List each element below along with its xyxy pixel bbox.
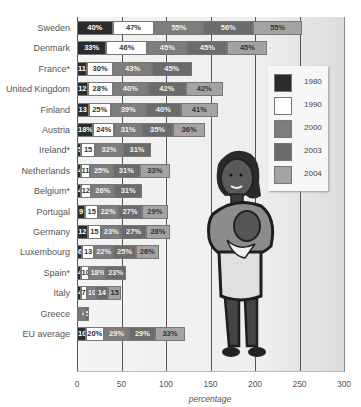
bar-segment-2003: 27% <box>118 205 142 219</box>
legend-swatch <box>274 74 292 92</box>
bar-segment-1990: 13 <box>82 245 94 259</box>
bar-segment-2004: 28% <box>146 225 171 239</box>
bar-segment-1980: 13 <box>77 103 89 117</box>
category-label: Germany <box>0 225 70 239</box>
stacked-bar: 1130%43%45% <box>77 62 192 76</box>
stacked-bar: 41018%23% <box>77 266 126 280</box>
bar-segment-2000: 10 <box>87 286 96 300</box>
bar-segment-1980: 11 <box>77 62 87 76</box>
bar-segment-2000: 39% <box>111 103 146 117</box>
bar-segment-2000: 29% <box>104 327 130 341</box>
bar-segment-2003: 35% <box>142 123 173 137</box>
category-label: Spain* <box>0 266 70 280</box>
bar-segment-1980: 33% <box>77 41 106 55</box>
category-label: Ireland* <box>0 143 70 157</box>
bar-segment-2000: 23% <box>101 225 121 239</box>
bar-segment-1990: 24% <box>93 123 114 137</box>
x-tick-label: 0 <box>75 379 80 389</box>
stacked-bar: 1228%40%42%42% <box>77 82 223 96</box>
bar-segment-2004: 33% <box>140 164 169 178</box>
bar-segment-2003: 27% <box>121 225 145 239</box>
bar-segment-1990: 10 <box>81 266 90 280</box>
category-label: Greece <box>0 307 70 321</box>
mother-and-baby-illustration <box>195 148 295 366</box>
x-tick-label: 250 <box>292 379 306 389</box>
bar-segment-2004: 29% <box>142 205 168 219</box>
bar-segment-1980: 40% <box>77 21 113 35</box>
legend-label: 2004 <box>304 169 322 178</box>
stacked-bar: 47101415 <box>77 286 121 300</box>
stacked-bar: 41226%31% <box>77 184 142 198</box>
bar-segment-2003: 31% <box>123 143 151 157</box>
bar-segment-2000: 18% <box>89 266 105 280</box>
legend-item-1980: 1980 <box>274 74 328 92</box>
category-label: Austria <box>0 123 70 137</box>
x-axis-label: percentage <box>189 394 232 404</box>
bar-segment-2000: 55% <box>154 21 203 35</box>
bar-segment-1990: 28% <box>88 82 113 96</box>
category-label: Sweden <box>0 21 70 35</box>
bar-segment-2004: 15 <box>108 286 121 300</box>
category-label: Luxembourg <box>0 245 70 259</box>
bar-segment-2003: 31% <box>113 164 141 178</box>
stacked-bar: 40%47%55%56%55% <box>77 21 302 35</box>
stacked-bar: 41125%31%33% <box>77 164 170 178</box>
category-label: France* <box>0 62 70 76</box>
bar-segment-2003: 45% <box>152 62 192 76</box>
bar-segment-2003: 23% <box>105 266 125 280</box>
x-tick-label: 300 <box>337 379 351 389</box>
category-label: Denmark <box>0 41 70 55</box>
category-label: United Kingdom <box>0 82 70 96</box>
bar-segment-2000: 26% <box>91 184 114 198</box>
bar-segment-1990: 11 <box>81 164 91 178</box>
bar-segment-2000: 32% <box>95 143 123 157</box>
x-tick-label: 200 <box>248 379 262 389</box>
bar-segment-2003: 56% <box>203 21 253 35</box>
bar-segment-2003: 25% <box>113 245 135 259</box>
stacked-bar: 33%46%45%45%45% <box>77 41 267 55</box>
bar-segment-1980: 12 <box>77 82 88 96</box>
x-tick-label: 150 <box>203 379 217 389</box>
bar-segment-1990: 12 <box>81 184 92 198</box>
bar-segment-2004: 36% <box>173 123 205 137</box>
bar-segment-1980: 10 <box>77 327 86 341</box>
stacked-bar: 61322%25%26% <box>77 245 159 259</box>
bar-segment-2004: 26% <box>136 245 159 259</box>
legend-item-2000: 2000 <box>274 120 328 138</box>
legend-label: 2003 <box>304 146 322 155</box>
bar-segment-1990: 15 <box>85 205 98 219</box>
bar-segment-2004: 41% <box>181 103 217 117</box>
bar-segment-2000: 45% <box>147 41 187 55</box>
legend-swatch <box>274 120 292 138</box>
bar-segment-2003: 14 <box>96 286 108 300</box>
legend-label: 2000 <box>304 123 322 132</box>
bar-segment-2003: 29% <box>129 327 155 341</box>
bar-segment-2004: 33% <box>155 327 184 341</box>
bar-segment-2000: 43% <box>113 62 151 76</box>
bar-segment-1990: 20% <box>86 327 104 341</box>
bar-segment-2003: 40% <box>146 103 182 117</box>
category-label: Portugal <box>0 205 70 219</box>
bar-segment-1990: 15 <box>88 225 101 239</box>
bar-segment-2000: 31% <box>114 123 142 137</box>
bar-segment-2003: 42% <box>148 82 185 96</box>
bar-segment-2000: 40% <box>113 82 149 96</box>
bar-segment-1990: 47% <box>113 21 155 35</box>
legend-swatch <box>274 97 292 115</box>
bar-segment-2003: 5 <box>85 307 89 321</box>
legend-item-1990: 1990 <box>274 97 328 115</box>
bar-segment-1990: 15 <box>81 143 94 157</box>
legend-label: 1990 <box>304 100 322 109</box>
bar-segment-1980: 18% <box>77 123 93 137</box>
bar-segment-1990: 46% <box>106 41 147 55</box>
bar-segment-2000: 22% <box>98 205 118 219</box>
bar-segment-1990: 30% <box>87 62 114 76</box>
stacked-bar: 1020%29%29%33% <box>77 327 185 341</box>
x-tick-label: 100 <box>159 379 173 389</box>
category-label: EU average <box>0 327 70 341</box>
bar-segment-2000: 22% <box>94 245 114 259</box>
bar-segment-1980: 12 <box>77 225 88 239</box>
stacked-bar: 1325%39%40%41% <box>77 103 218 117</box>
stacked-bar: 91522%27%29% <box>77 205 168 219</box>
bar-segment-2003: 45% <box>187 41 227 55</box>
